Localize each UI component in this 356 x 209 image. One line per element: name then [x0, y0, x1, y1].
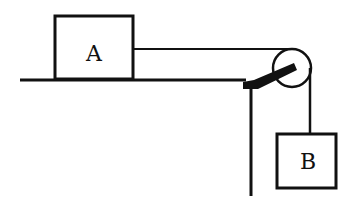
block-b-label: B [300, 149, 316, 174]
block-a-label: A [85, 41, 103, 66]
diagram-canvas: A B [0, 0, 356, 209]
pulley-diagram: A B [0, 0, 356, 209]
